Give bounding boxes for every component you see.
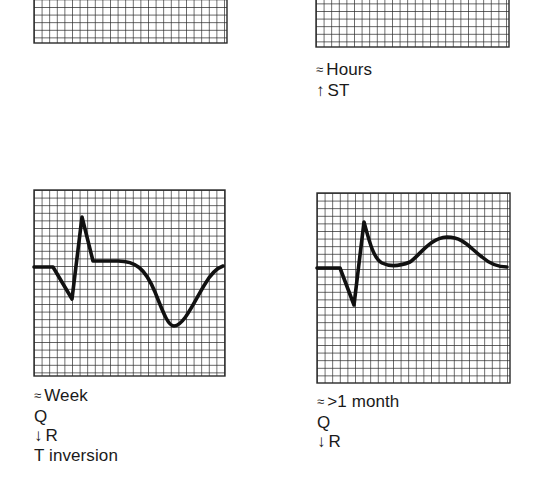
- caption-line-q: Q: [34, 407, 118, 427]
- arrow-down-icon: ↓: [34, 426, 43, 445]
- arrow-down-icon: ↓: [317, 432, 326, 451]
- caption-line-r: ↓R: [317, 432, 399, 452]
- arrow-up-icon: ↑: [316, 81, 325, 100]
- approx-icon: ≈: [316, 62, 323, 77]
- caption-bottom-left: ≈Week Q ↓R T inversion: [34, 386, 118, 465]
- caption-line-st: ↑ST: [316, 81, 372, 101]
- caption-line-t-inversion: T inversion: [34, 446, 118, 466]
- caption-line-time: ≈Hours: [316, 60, 372, 81]
- caption-top-right: ≈Hours ↑ST: [316, 60, 372, 100]
- grid-layer: [34, 0, 510, 383]
- approx-icon: ≈: [317, 394, 324, 409]
- ecg-grid-top-left: [34, 0, 227, 43]
- ecg-grid-top-right: [316, 0, 509, 47]
- caption-line-q: Q: [317, 413, 399, 433]
- caption-line-r: ↓R: [34, 426, 118, 446]
- approx-icon: ≈: [34, 388, 41, 403]
- caption-line-time: ≈Week: [34, 386, 118, 407]
- caption-bottom-right: ≈>1 month Q ↓R: [317, 392, 399, 452]
- caption-line-time: ≈>1 month: [317, 392, 399, 413]
